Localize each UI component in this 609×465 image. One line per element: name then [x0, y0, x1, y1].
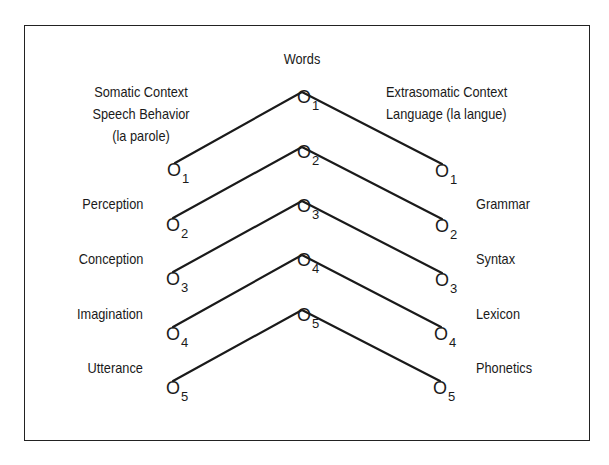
left-label-conception: Conception: [78, 251, 143, 268]
apex-node-5: O5: [297, 306, 319, 333]
apex-node-4: O4: [297, 251, 319, 278]
left-node-3: O3: [166, 270, 188, 297]
right-label-syntax: Syntax: [476, 251, 515, 268]
apex-node-2: O2: [297, 143, 319, 170]
right-node-1: O1: [435, 162, 457, 189]
right-label-phonetics: Phonetics: [476, 360, 532, 377]
left-node-2: O2: [166, 216, 188, 243]
apex-node-3: O3: [297, 197, 319, 224]
left-label-perception: Perception: [82, 196, 143, 213]
apex-node-1: O1: [297, 88, 319, 115]
left-node-4: O4: [166, 325, 188, 352]
right-node-4: O4: [434, 325, 456, 352]
right-header-line1: Extrasomatic Context: [386, 84, 507, 101]
left-node-5: O5: [166, 379, 188, 406]
right-label-lexicon: Lexicon: [476, 306, 520, 323]
diagram-title: Words: [267, 51, 337, 68]
chevron-lines: [0, 0, 609, 465]
right-header-line2: Language (la langue): [386, 106, 507, 123]
left-label-imagination: Imagination: [77, 306, 143, 323]
right-node-3: O3: [435, 271, 457, 298]
left-header-line2: Speech Behavior: [75, 106, 207, 123]
right-node-2: O2: [435, 217, 457, 244]
left-header-line3: (la parole): [75, 128, 207, 145]
left-header-line1: Somatic Context: [75, 84, 207, 101]
right-label-grammar: Grammar: [476, 196, 530, 213]
left-label-utterance: Utterance: [88, 360, 143, 377]
right-node-5: O5: [433, 379, 455, 406]
left-node-1: O1: [167, 161, 189, 188]
